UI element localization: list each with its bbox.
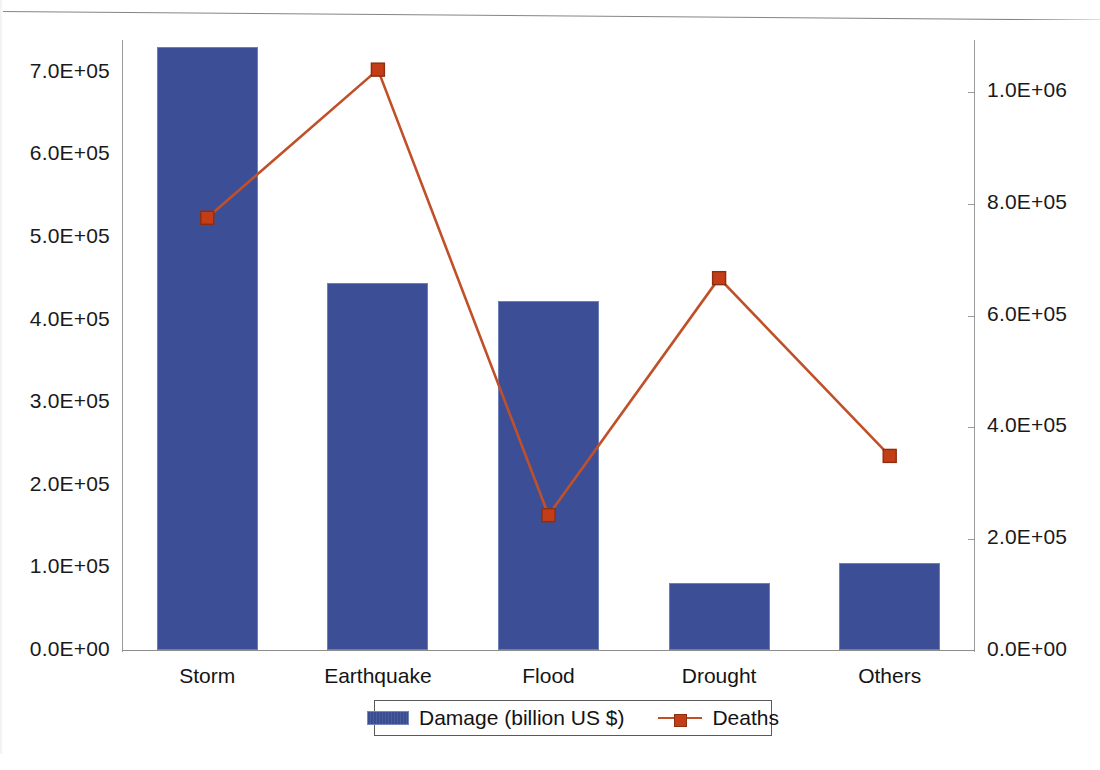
scan-artifact-line: [0, 6, 1100, 20]
right-tick-label: 6.0E+05: [987, 302, 1067, 326]
deaths-line-path: [207, 70, 889, 516]
right-tick-label: 2.0E+05: [987, 525, 1067, 549]
deaths-marker-drought: [713, 272, 726, 285]
legend-entry-deaths: Deaths: [658, 706, 779, 730]
deaths-marker-earthquake: [371, 63, 384, 76]
left-tick-label: 6.0E+05: [30, 141, 110, 165]
scan-edge-left: [0, 0, 3, 770]
legend-label-damage: Damage (billion US $): [419, 706, 624, 730]
left-tick-label: 7.0E+05: [30, 59, 110, 83]
chart-legend: Damage (billion US $) Deaths: [374, 700, 772, 736]
scan-edge-bottom: [0, 754, 1100, 770]
left-tick-label: 3.0E+05: [30, 389, 110, 413]
right-tick-label: 0.0E+00: [987, 637, 1067, 661]
left-tick-label: 5.0E+05: [30, 224, 110, 248]
left-tick-label: 2.0E+05: [30, 472, 110, 496]
left-tick-label: 1.0E+05: [30, 554, 110, 578]
deaths-marker-others: [883, 449, 896, 462]
chart-figure: 0.0E+001.0E+052.0E+053.0E+054.0E+055.0E+…: [0, 0, 1100, 770]
right-tick-label: 8.0E+05: [987, 190, 1067, 214]
legend-entry-damage: Damage (billion US $): [367, 706, 624, 730]
legend-label-deaths: Deaths: [712, 706, 779, 730]
deaths-marker-storm: [201, 211, 214, 224]
left-tick-label: 0.0E+00: [30, 637, 110, 661]
bar-swatch-icon: [367, 711, 409, 725]
line-series-deaths: [122, 40, 975, 651]
right-tick-label: 4.0E+05: [987, 413, 1067, 437]
category-label-others: Others: [790, 664, 990, 688]
deaths-marker-flood: [542, 509, 555, 522]
line-marker-swatch-icon: [658, 711, 702, 725]
left-tick-label: 4.0E+05: [30, 307, 110, 331]
plot-area: [122, 40, 975, 651]
right-tick-label: 1.0E+06: [987, 78, 1067, 102]
